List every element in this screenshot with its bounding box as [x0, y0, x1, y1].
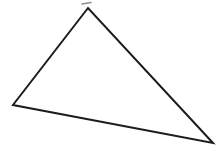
- drawing-area: [0, 0, 221, 157]
- triangle-shape: [13, 8, 213, 143]
- triangle-figure: [0, 0, 221, 157]
- pen-overshoot-mark: [82, 3, 91, 5]
